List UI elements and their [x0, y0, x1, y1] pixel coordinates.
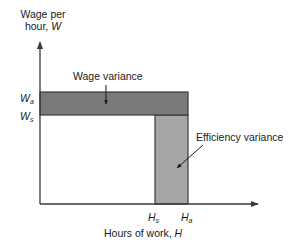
- x-tick-hs: Hs: [148, 211, 159, 227]
- x-tick-ha: Ha: [181, 211, 193, 227]
- y-axis-label: Wage per hour, W: [18, 8, 68, 32]
- x-axis-label: Hours of work, H: [104, 227, 182, 239]
- y-tick-ws: Ws: [20, 110, 33, 126]
- efficiency-variance-area: [155, 115, 188, 204]
- y-tick-wa: Wa: [20, 92, 34, 108]
- wage-variance-label: Wage variance: [73, 70, 143, 82]
- wage-variance-area: [40, 92, 188, 115]
- variance-diagram: [0, 0, 300, 243]
- efficiency-variance-label: Efficiency variance: [196, 131, 283, 143]
